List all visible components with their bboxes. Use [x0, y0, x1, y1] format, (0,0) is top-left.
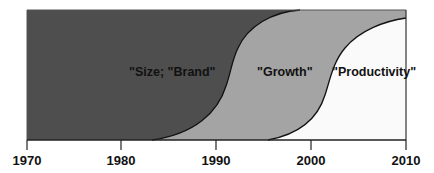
region-label-size-brand: "Size; "Brand"	[129, 65, 216, 79]
tick-label-2000: 2000	[297, 153, 326, 168]
tick-label-1990: 1990	[202, 153, 231, 168]
region-label-productivity: "Productivity"	[332, 65, 416, 79]
s-curve-area-chart: 1970 1980 1990 2000 2010 "Size; "Brand" …	[0, 0, 434, 173]
tick-label-2010: 2010	[392, 153, 421, 168]
region-label-growth: "Growth"	[257, 65, 313, 79]
tick-label-1980: 1980	[107, 153, 136, 168]
tick-label-1970: 1970	[13, 153, 42, 168]
x-axis-tick-labels: 1970 1980 1990 2000 2010	[13, 153, 421, 168]
x-axis-ticks	[27, 140, 406, 150]
